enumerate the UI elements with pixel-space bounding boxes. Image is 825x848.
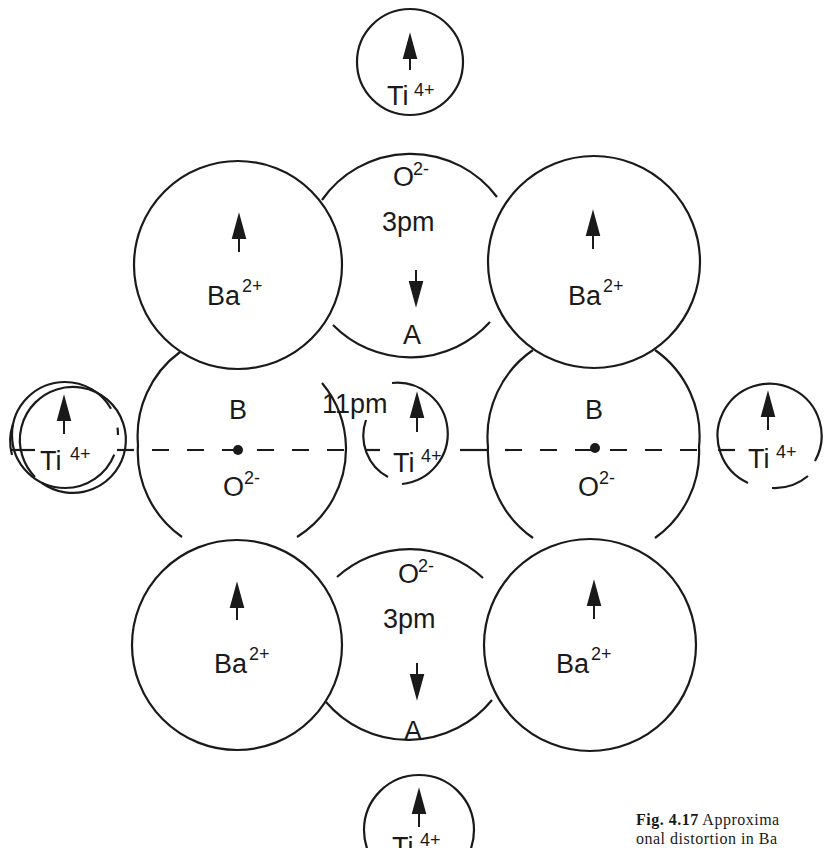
o-left-center-dot [233, 445, 243, 455]
svg-text:4+: 4+ [414, 80, 435, 100]
ba-top-right-circle [488, 156, 700, 368]
svg-text:2-: 2- [244, 468, 260, 488]
o-left-circle [138, 352, 346, 537]
svg-text:2+: 2+ [249, 644, 270, 664]
svg-text:A: A [404, 716, 422, 746]
ti-left-circle [10, 387, 126, 493]
svg-text:2-: 2- [418, 556, 434, 576]
arrow-up-icon [411, 395, 423, 432]
svg-text:Ba: Ba [214, 649, 248, 679]
svg-text:Ti: Ti [392, 832, 414, 848]
svg-text:Ti: Ti [748, 444, 770, 474]
svg-text:3pm: 3pm [382, 207, 435, 237]
ba-bottom-left-circle [132, 540, 342, 750]
svg-text:11pm: 11pm [322, 389, 388, 419]
o-right-center-dot [590, 443, 600, 453]
svg-text:2+: 2+ [242, 276, 263, 296]
caption-line-1: Approxima [702, 811, 779, 828]
svg-text:O: O [393, 162, 414, 192]
arrow-up-icon [413, 791, 425, 827]
svg-text:4+: 4+ [776, 442, 797, 462]
figure-label: Fig. 4.17 [636, 811, 699, 828]
caption-line-2: onal distortion in Ba [636, 829, 825, 848]
svg-text:2-: 2- [599, 468, 615, 488]
arrow-up-icon [762, 394, 774, 430]
svg-text:B: B [229, 395, 247, 425]
svg-text:Ba: Ba [568, 281, 602, 311]
svg-text:Ti: Ti [387, 81, 409, 111]
arrow-up-icon [404, 36, 416, 70]
svg-text:2+: 2+ [603, 276, 624, 296]
svg-text:O: O [223, 472, 244, 502]
svg-text:O: O [398, 559, 419, 589]
svg-text:4+: 4+ [70, 444, 91, 464]
figure-caption: Fig. 4.17 Approxima onal distortion in B… [636, 810, 825, 848]
svg-text:4+: 4+ [421, 446, 442, 466]
arrow-up-icon [231, 585, 243, 620]
svg-text:Ti: Ti [40, 446, 62, 476]
svg-text:A: A [403, 320, 421, 350]
svg-text:3pm: 3pm [383, 604, 436, 634]
ba-bottom-right-circle [484, 539, 696, 751]
arrow-down-icon [410, 270, 422, 304]
ba-top-left-circle [134, 161, 342, 369]
svg-text:Ba: Ba [556, 649, 590, 679]
arrow-up-icon [58, 398, 70, 434]
svg-text:O: O [578, 472, 599, 502]
arrow-down-icon [411, 663, 423, 697]
svg-text:4+: 4+ [420, 830, 441, 848]
arrow-up-icon [588, 583, 600, 619]
arrow-up-icon [587, 213, 599, 249]
svg-text:Ti: Ti [393, 448, 415, 478]
arrow-up-icon [233, 216, 245, 252]
svg-text:Ba: Ba [207, 281, 241, 311]
svg-text:2-: 2- [413, 159, 429, 179]
svg-text:2+: 2+ [591, 644, 612, 664]
perovskite-diagram: Ti 4+ O 2- 3pm A Ba 2+ Ba 2+ B O 2- 11pm… [0, 0, 825, 848]
svg-text:B: B [585, 395, 603, 425]
